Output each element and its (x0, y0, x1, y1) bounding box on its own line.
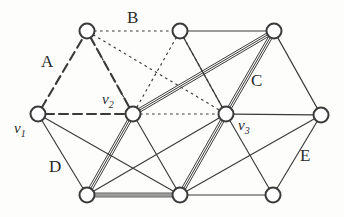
edge-layer (42, 31, 318, 197)
top-left-node (80, 24, 95, 39)
vertex-label-subscript: 3 (245, 125, 250, 136)
vertex-label-v2: v2 (102, 92, 114, 110)
vertex-label-v1: v1 (14, 121, 26, 139)
edge-v1-p8 (42, 120, 84, 189)
right-node (314, 108, 329, 123)
region-label-c: C (251, 72, 262, 89)
top-middle-node (173, 24, 188, 39)
edge-p2-v2 (136, 37, 176, 108)
vertex-v1 (31, 107, 46, 122)
vertex-v2 (126, 107, 141, 122)
vertex-label-subscript: 1 (21, 128, 26, 139)
vertex-label-subscript: 2 (109, 99, 114, 110)
edge-v1-p1 (42, 37, 84, 108)
graph-canvas (0, 0, 344, 217)
edge-v3-p7 (233, 114, 314, 115)
region-label-a: A (41, 53, 53, 70)
edge-p3-p7 (277, 37, 317, 109)
bottom-right-node (266, 188, 281, 203)
edge-v2-p8 (89, 119, 131, 190)
vertex-label-v3: v3 (238, 118, 250, 136)
bottom-left-node (80, 188, 95, 203)
region-label-d: D (49, 158, 61, 175)
region-label-e: E (300, 147, 310, 164)
region-label-b: B (127, 9, 138, 26)
vertex-label-base: v (102, 91, 109, 107)
vertex-v3 (219, 107, 234, 122)
top-right-node (267, 24, 282, 39)
edge-p8-p9 (94, 193, 173, 197)
vertex-label-base: v (14, 120, 21, 136)
bottom-middle-node (173, 188, 188, 203)
edge-p10-p7 (277, 121, 318, 189)
edge-v1-p9 (44, 117, 174, 191)
graph-figure: ABCDE v1v2v3 (0, 0, 344, 217)
vertex-label-base: v (238, 117, 245, 133)
edge-v3-p9 (182, 119, 224, 190)
